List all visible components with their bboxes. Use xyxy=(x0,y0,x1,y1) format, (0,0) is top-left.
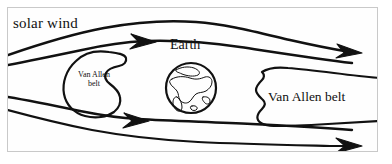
earth-label: Earth xyxy=(170,38,200,53)
solar-wind-streamline-4 xyxy=(8,110,362,153)
figure-root: solar wind Earth Van Allenbelt Van Allen… xyxy=(0,0,392,164)
van-allen-belt-left-label-line1: Van Allen xyxy=(78,70,110,79)
van-allen-belt-left-label-line2: belt xyxy=(88,79,100,88)
arrowhead-icon xyxy=(123,113,149,128)
van-allen-belt-right-label: Van Allen belt xyxy=(268,90,345,104)
earth-globe xyxy=(166,63,216,113)
van-allen-belt-left-label: Van Allenbelt xyxy=(68,70,120,88)
solar-wind-label: solar wind xyxy=(13,16,78,32)
